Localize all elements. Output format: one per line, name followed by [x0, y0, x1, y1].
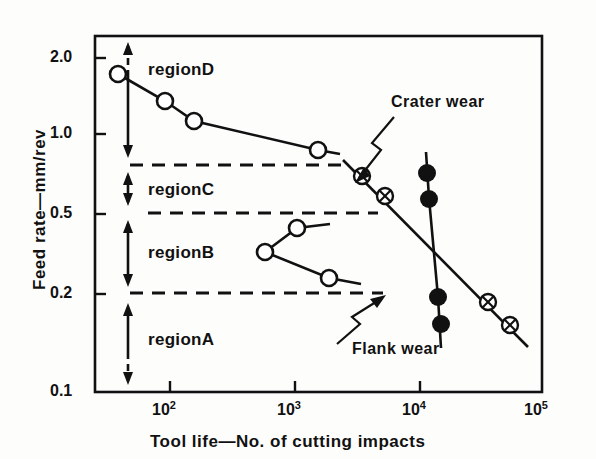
- region-d-curve: [110, 66, 340, 158]
- region-a-arrow-head-down: [123, 372, 133, 385]
- region-label-a: regionA: [148, 330, 214, 350]
- region-a-arrow-head-up: [123, 303, 133, 316]
- y-tick-label-2: 2.0: [50, 48, 72, 66]
- region-c-arrow-head-up: [123, 172, 133, 185]
- flank-wear-label: Flank wear: [352, 340, 440, 358]
- data-point: [289, 220, 305, 236]
- x-tick-label-1e2: 102: [152, 399, 176, 419]
- y-tick-label-0p1: 0.1: [50, 382, 72, 400]
- region-c-arrow-head-down: [123, 193, 133, 206]
- x-tick-label-1e4: 104: [402, 399, 426, 419]
- data-point: [186, 113, 202, 129]
- data-point: [377, 188, 393, 204]
- x-axis-title: Tool life—No. of cutting impacts: [150, 432, 425, 452]
- data-point: [429, 288, 447, 306]
- region-d-arrow-head-down: [123, 145, 133, 158]
- x-tick-exp: 3: [295, 399, 301, 411]
- x-tick-base: 10: [277, 401, 295, 418]
- x-tick-exp: 4: [420, 399, 426, 411]
- x-tick-marks: [170, 381, 420, 392]
- crater-wear-label: Crater wear: [391, 93, 485, 111]
- region-span-arrows: [123, 42, 133, 385]
- region-b-arrow-head-down: [123, 274, 133, 287]
- region-d-arrow-head-up: [123, 42, 133, 55]
- x-tick-label-1e5: 105: [524, 399, 548, 419]
- data-point: [420, 190, 438, 208]
- flank-wear-arrow: [337, 300, 379, 344]
- x-tick-label-1e3: 103: [277, 399, 301, 419]
- y-tick-marks: [95, 58, 106, 294]
- region-label-b: regionB: [148, 243, 214, 263]
- figure-root: Feed rate—mm/rev 2.0 1.0 0.5 0.2 0.1 102…: [0, 0, 596, 459]
- chart-svg: [0, 0, 596, 459]
- region-label-c: regionC: [148, 180, 214, 200]
- x-tick-exp: 5: [542, 399, 548, 411]
- x-tick-base: 10: [402, 401, 420, 418]
- region-label-d: regionD: [148, 60, 214, 80]
- flank-wear-arrow-head: [370, 295, 386, 308]
- y-tick-label-0p2: 0.2: [50, 284, 72, 302]
- data-point: [157, 93, 173, 109]
- y-tick-label-1: 1.0: [50, 124, 72, 142]
- x-tick-base: 10: [524, 401, 542, 418]
- y-axis-title: Feed rate—mm/rev: [30, 129, 50, 290]
- region-b-arrow-head-up: [123, 220, 133, 233]
- data-point: [321, 270, 337, 286]
- data-point: [110, 66, 126, 82]
- data-point: [432, 315, 450, 333]
- flank-wear-series: [418, 152, 450, 348]
- data-point: [480, 294, 496, 310]
- x-tick-base: 10: [152, 401, 170, 418]
- data-point: [418, 164, 436, 182]
- y-tick-label-0p5: 0.5: [50, 204, 72, 222]
- region-b-curve: [257, 220, 361, 286]
- x-tick-exp: 2: [170, 399, 176, 411]
- data-point: [310, 142, 326, 158]
- data-point: [257, 244, 273, 260]
- data-point: [502, 317, 518, 333]
